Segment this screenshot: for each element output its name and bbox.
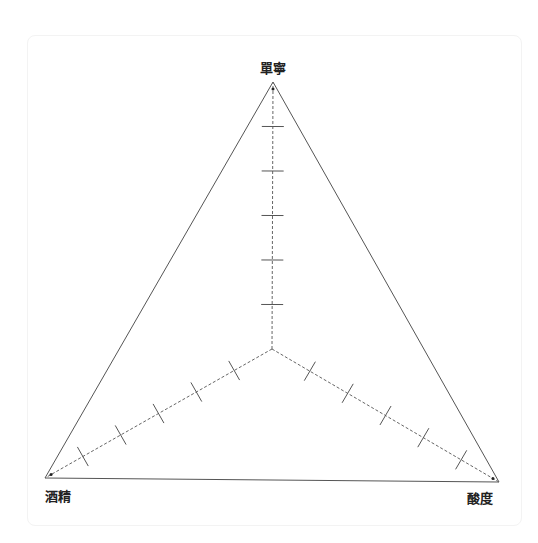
vertex-dot-alcohol — [50, 473, 53, 476]
radar-chart: 單寧 酸度 酒精 — [0, 0, 538, 543]
tick-alcohol-5 — [77, 447, 88, 466]
tick-alcohol-1 — [229, 361, 240, 380]
tick-alcohol-4 — [115, 425, 126, 444]
axis-label-alcohol: 酒精 — [45, 489, 71, 504]
axis-label-acidity: 酸度 — [467, 491, 494, 506]
tick-acidity-3 — [380, 406, 391, 425]
vertex-dot-tannin — [271, 87, 274, 90]
tick-acidity-1 — [304, 362, 315, 381]
tick-acidity-4 — [418, 428, 429, 447]
axis-label-tannin: 單寧 — [260, 61, 286, 76]
vertex-dot-acidity — [491, 477, 494, 480]
tick-alcohol-2 — [191, 382, 202, 401]
tick-acidity-2 — [342, 384, 353, 403]
tick-alcohol-3 — [153, 404, 164, 423]
tick-acidity-5 — [456, 450, 467, 469]
